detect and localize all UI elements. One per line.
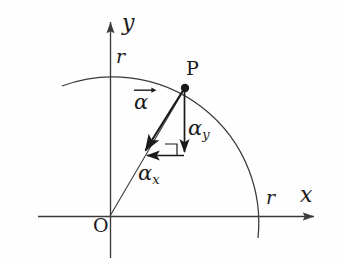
point-p-dot — [181, 84, 189, 92]
alpha-y-label: αy — [188, 118, 210, 141]
right-angle-marker — [165, 144, 177, 156]
radius-label-y-axis: r — [116, 47, 125, 66]
alpha-vector-label: α — [134, 92, 148, 113]
radius-label-x-axis: r — [266, 188, 275, 207]
alpha-vector-arrow — [146, 89, 185, 151]
alpha-vector-symbol: α — [134, 90, 148, 114]
point-p-label: P — [186, 59, 199, 78]
overrightarrow-icon — [133, 85, 157, 93]
alpha-x-subscript: x — [152, 172, 159, 187]
circle-arc-radius-r — [62, 77, 259, 238]
vector-decomposition-diagram: y x r r O P α αy αx — [0, 0, 344, 266]
alpha-y-subscript: y — [202, 127, 209, 142]
origin-label: O — [93, 216, 109, 235]
x-axis-label: x — [300, 184, 312, 206]
alpha-x-symbol: α — [138, 161, 152, 185]
diagram-canvas — [0, 0, 344, 266]
y-axis-label: y — [122, 12, 134, 34]
alpha-x-label: αx — [138, 163, 160, 186]
alpha-y-symbol: α — [188, 116, 202, 140]
